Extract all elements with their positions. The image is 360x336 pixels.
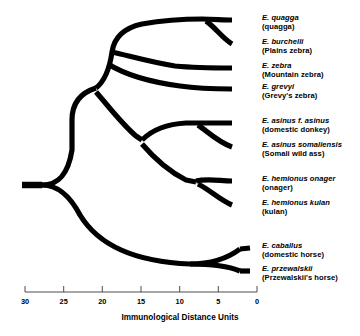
taxon-common-name: (Przewalskii's horse) [262,273,338,282]
axis-line [25,286,257,292]
taxon-label-caballus: E. caballus (domestic horse) [262,241,324,260]
phylogenetic-tree-figure: E. quagga (quagga) E. burchelli (Plains … [0,0,360,336]
taxon-scientific-name: E. asinus f. asinus [262,116,330,125]
axis-title: Immunological Distance Units [0,313,360,322]
taxon-label-kulan: E. hemionus kulan (kulan) [262,198,330,217]
taxon-common-name: (quagga) [262,22,299,31]
taxon-label-burchelli: E. burchelli (Plains zebra) [262,37,312,56]
taxon-label-przewalskii: E. przewalskii (Przewalskii's horse) [262,264,338,283]
taxon-common-name: (Grevy's zebra) [262,91,317,100]
taxon-common-name: (domestic donkey) [262,125,330,134]
taxon-label-quagga: E. quagga (quagga) [262,13,299,32]
branch-to-ass-clade [96,92,142,140]
axis-tick-25: 25 [60,297,68,306]
taxon-scientific-name: E. zebra [262,61,324,70]
taxon-scientific-name: E. quagga [262,13,299,22]
branch-quagga [202,19,232,20]
axis-tick-15: 15 [137,297,145,306]
axis-tick-5: 5 [216,297,220,306]
branch-onager [196,180,232,181]
branch-zebraass-node [72,88,96,120]
taxon-common-name: (Somali wild ass) [262,149,342,158]
taxon-scientific-name: E. asinus somaliensis [262,140,342,149]
taxon-scientific-name: E. caballus [262,241,324,250]
taxon-label-onager: E. hemionus onager (onager) [262,174,335,193]
taxon-scientific-name: E. burchelli [262,37,312,46]
branch-caballus-tip [240,248,250,249]
axis-tick-30: 30 [21,297,29,306]
taxon-common-name: (domestic horse) [262,250,324,259]
branch-przewalskii [190,264,240,271]
taxon-common-name: (Mountain zebra) [262,70,324,79]
axis-tick-0: 0 [255,297,259,306]
axis-tick-20: 20 [98,297,106,306]
taxon-scientific-name: E. grevyi [262,82,317,91]
taxon-label-asinus: E. asinus f. asinus (domestic donkey) [262,116,330,135]
taxon-label-grevyi: E. grevyi (Grevy's zebra) [262,82,317,101]
taxon-common-name: (Plains zebra) [262,46,312,55]
taxon-scientific-name: E. przewalskii [262,264,338,273]
branch-to-hemionus-clade [142,144,196,182]
branch-somaliensis [198,125,232,147]
branch-zebra [112,52,232,68]
branch-kulan [198,184,232,205]
branch-burchelli [206,21,232,44]
taxon-scientific-name: E. hemionus kulan [262,198,330,207]
taxon-common-name: (onager) [262,183,335,192]
taxon-scientific-name: E. hemionus onager [262,174,335,183]
axis-tick-10: 10 [176,297,184,306]
branch-root-to-equus-clade [42,120,72,185]
branch-to-asinus-clade [142,123,196,140]
taxon-common-name: (kulan) [262,207,330,216]
taxon-label-zebra: E. zebra (Mountain zebra) [262,61,324,80]
taxon-label-somaliensis: E. asinus somaliensis (Somali wild ass) [262,140,342,159]
branch-root-to-horse-clade [42,185,190,264]
